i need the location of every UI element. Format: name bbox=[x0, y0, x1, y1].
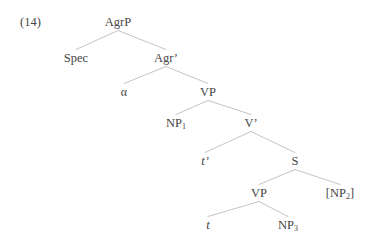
tree-node-label: NP bbox=[278, 218, 294, 232]
tree-node-label: Agr’ bbox=[154, 51, 178, 65]
tree-edge-agrp-to-spec bbox=[76, 31, 118, 50]
tree-edge-agrbar-to-alpha bbox=[124, 67, 166, 84]
tree-branch-lines bbox=[0, 0, 377, 239]
tree-edge-vp2-to-np3 bbox=[259, 202, 288, 217]
tree-edge-vbar-to-s bbox=[251, 132, 295, 153]
tree-node-label: α bbox=[121, 85, 127, 99]
syntax-tree-figure: (14) AgrPSpecAgr’αVPNP1V’t’SVP[NP2]tNP3 bbox=[0, 0, 377, 239]
tree-node-t: t bbox=[206, 219, 209, 232]
tree-node-s: S bbox=[292, 155, 299, 168]
tree-node-subscript: 1 bbox=[182, 122, 186, 131]
tree-edge-vp2-to-t bbox=[208, 202, 259, 217]
tree-node-suffix: ] bbox=[350, 186, 354, 200]
tree-node-label: AgrP bbox=[105, 15, 131, 29]
tree-edge-agrbar-to-vp1 bbox=[166, 67, 208, 84]
tree-node-vbar: V’ bbox=[244, 117, 257, 130]
tree-node-np2: [NP2] bbox=[326, 187, 354, 201]
tree-edge-agrp-to-agrbar bbox=[118, 31, 166, 50]
tree-node-vp1: VP bbox=[200, 86, 216, 99]
tree-edge-s-to-vp2 bbox=[259, 170, 295, 185]
tree-node-label: VP bbox=[200, 85, 216, 99]
tree-node-alpha: α bbox=[121, 86, 127, 98]
tree-node-np3: NP3 bbox=[278, 219, 298, 233]
tree-node-label: V’ bbox=[244, 116, 257, 130]
tree-node-np1: NP1 bbox=[166, 117, 186, 131]
tree-node-tprime: t’ bbox=[201, 155, 209, 168]
tree-node-subscript: 3 bbox=[294, 224, 298, 233]
tree-node-label: NP bbox=[166, 116, 182, 130]
tree-node-label: VP bbox=[251, 186, 267, 200]
tree-node-agrp: AgrP bbox=[105, 16, 131, 29]
tree-node-agrbar: Agr’ bbox=[154, 52, 178, 65]
tree-node-vp2: VP bbox=[251, 187, 267, 200]
tree-node-label: t’ bbox=[201, 154, 209, 168]
tree-node-spec: Spec bbox=[64, 52, 88, 65]
tree-edge-vbar-to-tprime bbox=[205, 132, 251, 153]
tree-node-label: S bbox=[292, 154, 299, 168]
tree-edge-vp1-to-vbar bbox=[208, 101, 251, 115]
tree-edge-vp1-to-np1 bbox=[176, 101, 208, 115]
tree-node-label: t bbox=[206, 218, 209, 232]
tree-edge-s-to-np2 bbox=[295, 170, 340, 185]
tree-node-label: [NP bbox=[326, 186, 346, 200]
tree-node-label: Spec bbox=[64, 51, 88, 65]
